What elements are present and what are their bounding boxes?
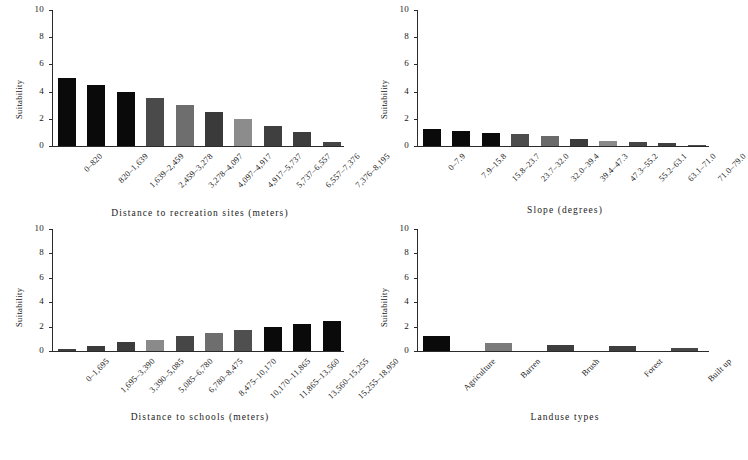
y-tick-mark xyxy=(414,229,417,230)
x-tick-label: Agriculture xyxy=(461,356,497,392)
y-tick-mark xyxy=(414,278,417,279)
bar xyxy=(671,348,698,351)
x-tick-label: Built up xyxy=(705,356,733,384)
bar xyxy=(485,343,512,351)
y-tick-mark xyxy=(414,302,417,303)
x-axis-title: Landuse types xyxy=(415,412,715,422)
y-tick-label: 0 xyxy=(387,345,409,355)
x-tick-label: Barren xyxy=(518,356,542,380)
x-tick-label: Forest xyxy=(641,356,664,379)
bar xyxy=(423,336,450,351)
bar xyxy=(609,346,636,351)
y-tick-label: 8 xyxy=(387,247,409,257)
y-tick-label: 4 xyxy=(387,296,409,306)
bar xyxy=(547,345,574,351)
y-tick-mark xyxy=(414,327,417,328)
y-axis-line xyxy=(417,229,418,352)
y-tick-label: 6 xyxy=(387,272,409,282)
y-tick-label: 2 xyxy=(387,321,409,331)
x-tick-label: Brush xyxy=(579,356,601,378)
y-tick-mark xyxy=(414,253,417,254)
y-tick-label: 10 xyxy=(387,223,409,233)
y-axis-title: Suitability xyxy=(379,287,389,326)
y-tick-mark xyxy=(414,351,417,352)
x-axis-line xyxy=(417,351,709,352)
